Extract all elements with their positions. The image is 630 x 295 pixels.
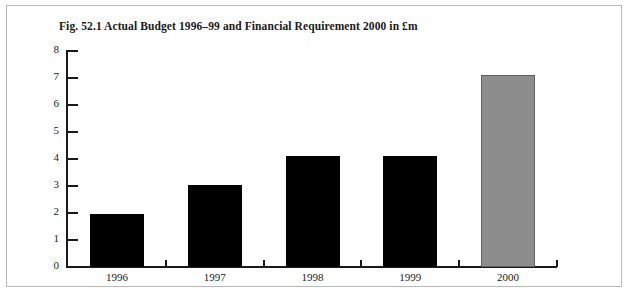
bar-chart-plot: 012345678 19961997199819992000: [7, 6, 622, 287]
y-tick-label-7: 7: [7, 70, 59, 82]
bar-1996: [90, 214, 144, 267]
y-tick-label-1: 1: [7, 232, 59, 244]
x-tick-label-1996: 1996: [77, 271, 157, 283]
bar-1999: [383, 156, 437, 267]
y-tick-7: [68, 77, 78, 79]
bar-1997: [188, 185, 242, 267]
y-tick-label-3: 3: [7, 178, 59, 190]
x-tick-label-2000: 2000: [468, 271, 548, 283]
x-tick-1: [165, 260, 167, 267]
y-tick-6: [68, 104, 78, 106]
y-tick-2: [68, 212, 78, 214]
y-tick-5: [68, 131, 78, 133]
y-tick-label-8: 8: [7, 43, 59, 55]
bar-1998: [286, 156, 340, 267]
x-tick-label-1997: 1997: [175, 271, 255, 283]
y-tick-label-4: 4: [7, 151, 59, 163]
y-tick-1: [68, 239, 78, 241]
y-tick-label-0: 0: [7, 259, 59, 271]
bar-2000: [481, 75, 535, 267]
y-tick-label-5: 5: [7, 124, 59, 136]
y-tick-8: [68, 50, 78, 52]
x-tick-label-1999: 1999: [370, 271, 450, 283]
x-tick-3: [360, 260, 362, 267]
y-tick-4: [68, 158, 78, 160]
x-tick-label-1998: 1998: [273, 271, 353, 283]
y-tick-label-6: 6: [7, 97, 59, 109]
y-tick-label-2: 2: [7, 205, 59, 217]
figure-frame: Fig. 52.1 Actual Budget 1996–99 and Fina…: [6, 5, 622, 287]
y-tick-3: [68, 185, 78, 187]
y-tick-0: [68, 266, 78, 268]
x-tick-2: [263, 260, 265, 267]
x-tick-4: [458, 260, 460, 267]
x-tick-5: [556, 260, 558, 267]
